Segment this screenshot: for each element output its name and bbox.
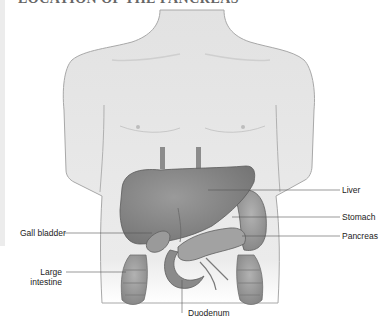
label-stomach: Stomach [342,212,376,222]
label-pancreas: Pancreas [342,231,378,241]
label-large-intestine-line1: Large [30,267,62,277]
label-large-intestine-line2: intestine [30,277,62,287]
label-liver: Liver [342,185,360,195]
label-duodenum: Duodenum [188,308,230,318]
label-gall-bladder: Gall bladder [20,228,66,238]
label-large-intestine: Large intestine [30,267,62,287]
